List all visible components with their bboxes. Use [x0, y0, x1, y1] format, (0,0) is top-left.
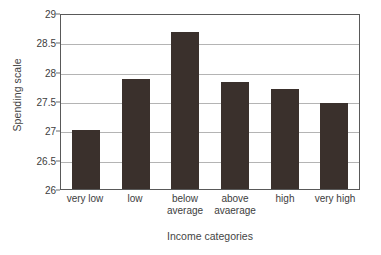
- x-axis-tick-label-line1: very low: [67, 193, 104, 204]
- bar[interactable]: [221, 82, 249, 189]
- x-axis-tick-label: aboveavaerage: [210, 192, 260, 226]
- x-axis-tick-label-line2: average: [160, 205, 210, 217]
- x-axis-tick-label: belowaverage: [160, 192, 210, 226]
- x-axis-tick-label: very low: [60, 192, 110, 226]
- x-axis-tick-label-line1: low: [127, 193, 142, 204]
- bar[interactable]: [271, 89, 299, 189]
- y-axis-tick-label: 28: [45, 67, 56, 78]
- bar-slot: [160, 15, 210, 189]
- y-axis-tick-label: 28.5: [37, 38, 56, 49]
- bar[interactable]: [171, 32, 199, 189]
- x-axis-tick-label-line1: below: [172, 193, 198, 204]
- y-axis-tick-label: 26.5: [37, 155, 56, 166]
- x-axis-title: Income categories: [60, 230, 360, 242]
- y-axis-tick-label: 26: [45, 185, 56, 196]
- y-axis-tick-labels: 2626.52727.52828.529: [26, 14, 60, 190]
- y-axis-tick-label: 27.5: [37, 97, 56, 108]
- bar-slot: [309, 15, 359, 189]
- bar-slot: [61, 15, 111, 189]
- bar-slot: [210, 15, 260, 189]
- x-axis-title-label: Income categories: [167, 230, 253, 242]
- plot-area: [60, 14, 360, 190]
- bar-slot: [111, 15, 161, 189]
- bar[interactable]: [122, 79, 150, 189]
- y-axis-title-label: Spending scale: [11, 58, 23, 131]
- bar-chart-figure: Spending scale 2626.52727.52828.529 very…: [0, 0, 381, 255]
- x-axis-tick-label-line1: high: [276, 193, 295, 204]
- x-axis-tick-labels: very lowlowbelowaverageaboveavaeragehigh…: [60, 192, 360, 226]
- bars-container: [61, 15, 359, 189]
- bar[interactable]: [320, 103, 348, 189]
- bar-slot: [260, 15, 310, 189]
- y-axis-tick-label: 29: [45, 9, 56, 20]
- y-axis-title: Spending scale: [6, 0, 28, 190]
- x-axis-tick-label-line2: avaerage: [210, 205, 260, 217]
- x-axis-tick-label: very high: [310, 192, 360, 226]
- y-axis-tick-label: 27: [45, 126, 56, 137]
- bar[interactable]: [72, 130, 100, 189]
- x-axis-tick-label: high: [260, 192, 310, 226]
- x-axis-tick-label-line1: above: [221, 193, 248, 204]
- x-axis-tick-label-line1: very high: [315, 193, 356, 204]
- x-axis-tick-label: low: [110, 192, 160, 226]
